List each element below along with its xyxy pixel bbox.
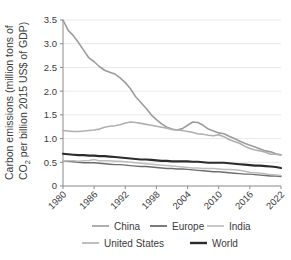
y-tick-label-0: 0 [52, 180, 57, 191]
legend-label-world: World [212, 238, 238, 249]
legend-label-china: China [114, 221, 141, 232]
legend-label-united-states: United States [104, 238, 164, 249]
y-tick-label-3.0: 3.0 [44, 38, 57, 49]
y-axis-label-line1: Carbon emissions (million tons of [3, 25, 15, 180]
carbon-intensity-line-chart: 00.51.01.52.02.53.03.5 19801986199219982… [0, 0, 291, 260]
y-axis-label: Carbon emissions (million tons of CO2 pe… [3, 22, 32, 180]
y-tick-label-0.5: 0.5 [44, 157, 57, 168]
y-axis-label-rest: per billion 2015 US$ of GDP) [17, 22, 29, 160]
chart-canvas: 00.51.01.52.02.53.03.5 19801986199219982… [0, 0, 291, 260]
y-tick-label-1.0: 1.0 [44, 133, 57, 144]
y-tick-label-3.5: 3.5 [44, 14, 57, 25]
legend-label-india: India [229, 221, 251, 232]
y-tick-label-1.5: 1.5 [44, 109, 57, 120]
y-axis-label-co2-text: CO [17, 164, 29, 180]
y-tick-label-2.0: 2.0 [44, 86, 57, 97]
legend-label-europe: Europe [172, 221, 205, 232]
y-tick-label-2.5: 2.5 [44, 62, 57, 73]
